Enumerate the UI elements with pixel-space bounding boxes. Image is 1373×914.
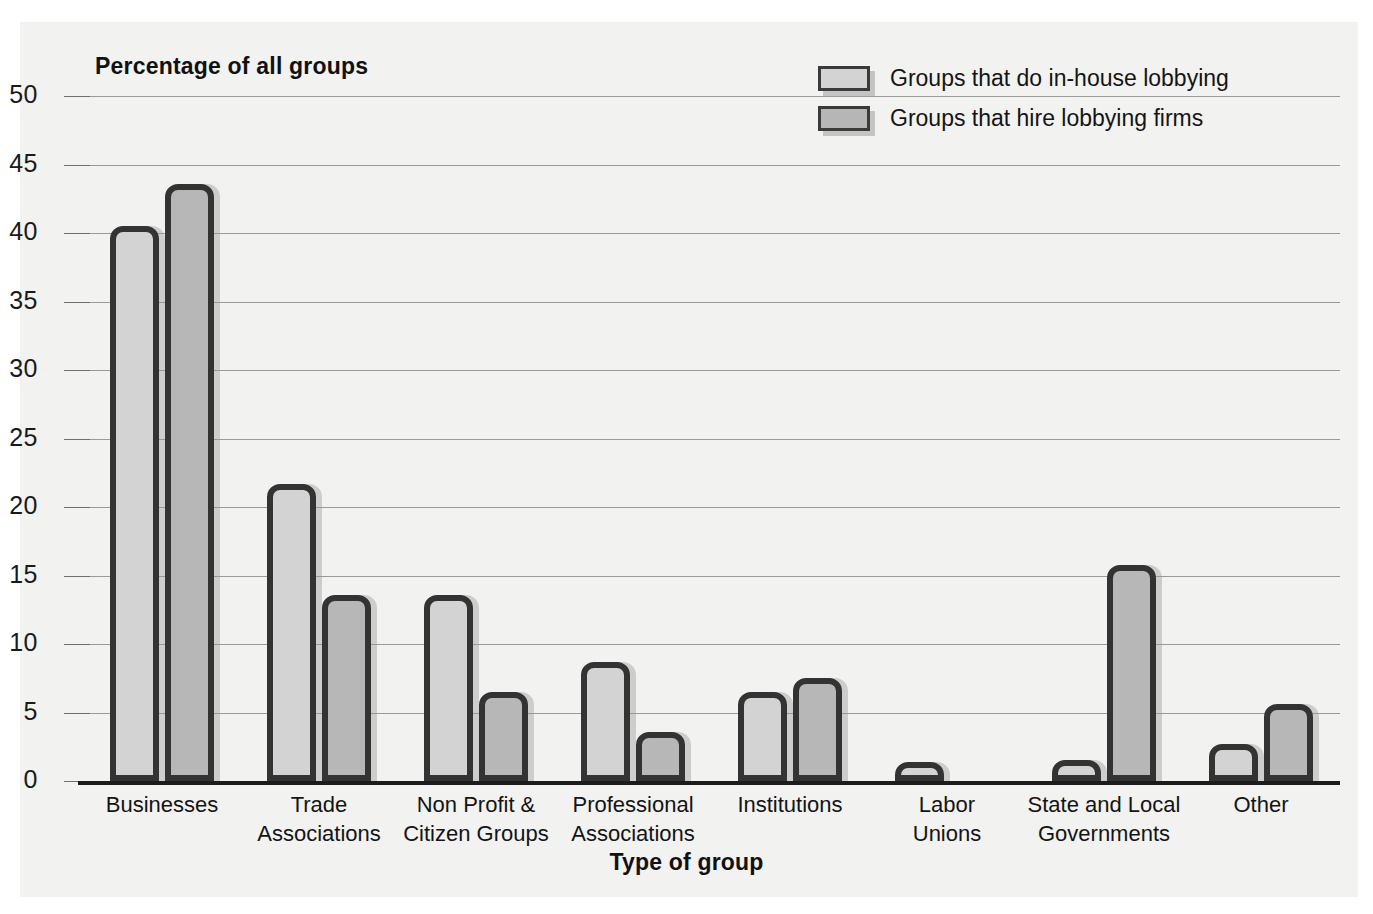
y-tick-30 xyxy=(64,370,90,371)
y-tick-5 xyxy=(64,713,90,714)
y-tick-label-35: 35 xyxy=(0,286,38,315)
y-tick-label-40: 40 xyxy=(0,217,38,246)
y-tick-label-45: 45 xyxy=(0,149,38,178)
category-label-line: Other xyxy=(1161,790,1361,819)
gridline-25 xyxy=(90,439,1340,440)
y-tick-25 xyxy=(64,439,90,440)
bar-5-0 xyxy=(895,762,944,781)
y-tick-label-50: 50 xyxy=(0,80,38,109)
legend-item-0: Groups that do in-house lobbying xyxy=(818,60,1229,96)
y-tick-50 xyxy=(64,96,90,97)
gridline-35 xyxy=(90,302,1340,303)
bar-2-0 xyxy=(424,595,473,781)
bar-1-0 xyxy=(267,484,316,781)
y-tick-10 xyxy=(64,644,90,645)
y-tick-label-10: 10 xyxy=(0,628,38,657)
bar-6-0 xyxy=(1052,760,1101,781)
bar-3-1 xyxy=(636,732,685,781)
bar-2-1 xyxy=(479,692,528,781)
y-axis-title: Percentage of all groups xyxy=(95,53,368,80)
category-label-line: Associations xyxy=(533,819,733,848)
y-tick-label-20: 20 xyxy=(0,491,38,520)
category-label-7: Other xyxy=(1161,790,1361,819)
legend-label: Groups that do in-house lobbying xyxy=(890,65,1229,92)
category-label-line: Governments xyxy=(1004,819,1204,848)
bar-7-1 xyxy=(1264,704,1313,781)
bar-0-1 xyxy=(165,184,214,781)
gridline-45 xyxy=(90,165,1340,166)
bar-7-0 xyxy=(1209,744,1258,781)
gridline-40 xyxy=(90,233,1340,234)
y-tick-label-30: 30 xyxy=(0,354,38,383)
bar-4-0 xyxy=(738,692,787,781)
bar-6-1 xyxy=(1107,565,1156,781)
x-axis-line xyxy=(78,781,1340,785)
y-tick-40 xyxy=(64,233,90,234)
y-tick-label-0: 0 xyxy=(0,765,38,794)
gridline-50 xyxy=(90,96,1340,97)
gridline-30 xyxy=(90,370,1340,371)
y-tick-15 xyxy=(64,576,90,577)
y-tick-20 xyxy=(64,507,90,508)
chart-page: Percentage of all groups Groups that do … xyxy=(0,0,1373,914)
bar-4-1 xyxy=(793,678,842,781)
y-tick-label-25: 25 xyxy=(0,423,38,452)
plot-area xyxy=(90,96,1340,781)
y-tick-label-15: 15 xyxy=(0,560,38,589)
bar-3-0 xyxy=(581,662,630,781)
y-tick-label-5: 5 xyxy=(0,697,38,726)
bar-1-1 xyxy=(322,595,371,781)
legend-swatch-icon xyxy=(818,66,870,91)
bar-0-0 xyxy=(110,226,159,781)
y-tick-45 xyxy=(64,165,90,166)
x-axis-title: Type of group xyxy=(0,849,1373,876)
y-tick-35 xyxy=(64,302,90,303)
